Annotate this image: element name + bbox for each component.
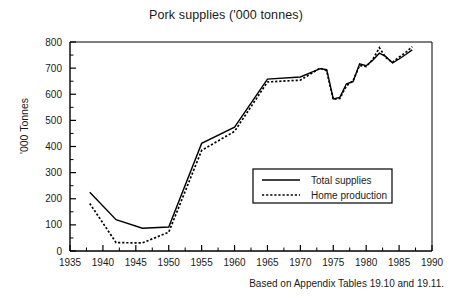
y-axis-title: '000 Tonnes [18,76,30,176]
y-tick-label: 400 [45,141,62,152]
x-tick-label: 1980 [355,257,378,268]
y-tick-label: 200 [45,193,62,204]
x-tick-label: 1950 [158,257,181,268]
legend-label: Total supplies [311,175,372,186]
x-tick-label: 1985 [388,257,411,268]
x-tick-label: 1975 [322,257,345,268]
legend-label: Home production [311,190,387,201]
x-tick-label: 1940 [92,257,115,268]
x-tick-label: 1935 [59,257,82,268]
x-tick-label: 1970 [289,257,312,268]
y-tick-label: 500 [45,115,62,126]
chart-tick-labels: 0100200300400500600700800193519401945195… [45,37,443,268]
x-tick-label: 1955 [191,257,214,268]
x-tick-label: 1990 [421,257,444,268]
chart-axes [70,42,432,251]
y-tick-label: 100 [45,219,62,230]
y-tick-label: 0 [56,246,62,257]
chart-source-note: Based on Appendix Tables 19.10 and 19.11… [249,278,444,289]
x-tick-label: 1945 [125,257,148,268]
y-tick-label: 700 [45,63,62,74]
chart-series-group [90,47,413,243]
series-line-home-production [90,47,413,243]
x-tick-label: 1960 [223,257,246,268]
chart-plot-area: 0100200300400500600700800193519401945195… [0,0,452,305]
chart-figure: Pork supplies ('000 tonnes) '000 Tonnes … [0,0,452,305]
y-tick-label: 600 [45,89,62,100]
chart-tick-marks [70,42,432,251]
chart-legend: Total suppliesHome production [253,169,392,203]
x-tick-label: 1965 [256,257,279,268]
chart-title: Pork supplies ('000 tonnes) [0,8,452,22]
y-tick-label: 300 [45,167,62,178]
y-tick-label: 800 [45,37,62,48]
